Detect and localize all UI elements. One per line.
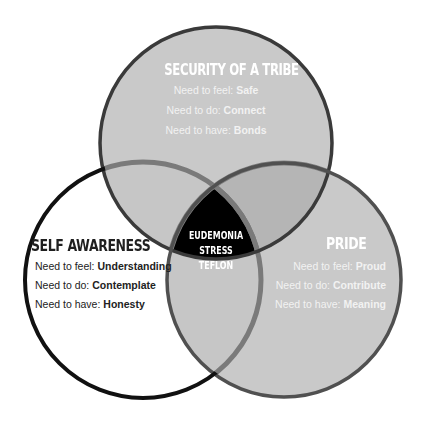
do-label: Need to do: <box>166 104 220 116</box>
circle-right-feel: Need to feel: Proud <box>293 260 386 272</box>
have-value: Bonds <box>234 124 267 136</box>
circle-right-title: PRIDE <box>326 234 366 253</box>
have-label: Need to have: <box>35 298 100 310</box>
circle-top-do: Need to do: Connect <box>136 104 296 116</box>
have-value: Honesty <box>103 298 144 310</box>
circle-right-do: Need to do: Contribute <box>276 279 386 291</box>
have-label: Need to have: <box>275 298 340 310</box>
circle-top-feel: Need to feel: Safe <box>136 84 296 96</box>
do-label: Need to do: <box>35 279 89 291</box>
circle-top-title: SECURITY OF A TRIBE <box>164 61 265 79</box>
do-value: Contemplate <box>92 279 156 291</box>
feel-label: Need to feel: <box>35 260 95 272</box>
feel-value: Proud <box>356 260 386 272</box>
circle-left-do: Need to do: Contemplate <box>35 279 156 291</box>
feel-label: Need to feel: <box>293 260 353 272</box>
center-label: EUDEMONIA STRESS TEFLON <box>187 228 245 273</box>
circle-right-have: Need to have: Meaning <box>275 298 386 310</box>
have-label: Need to have: <box>166 124 231 136</box>
circle-left-feel: Need to feel: Understanding <box>35 260 172 272</box>
circle-left-title: SELF AWARENESS <box>31 236 150 255</box>
circle-top-have: Need to have: Bonds <box>136 124 296 136</box>
do-value: Contribute <box>333 279 386 291</box>
feel-label: Need to feel: <box>174 84 234 96</box>
feel-value: Safe <box>236 84 258 96</box>
center-line-2: STRESS TEFLON <box>187 243 245 273</box>
do-label: Need to do: <box>276 279 330 291</box>
center-line-1: EUDEMONIA <box>187 228 245 243</box>
do-value: Connect <box>224 104 266 116</box>
circle-left-have: Need to have: Honesty <box>35 298 145 310</box>
feel-value: Understanding <box>97 260 171 272</box>
have-value: Meaning <box>343 298 386 310</box>
